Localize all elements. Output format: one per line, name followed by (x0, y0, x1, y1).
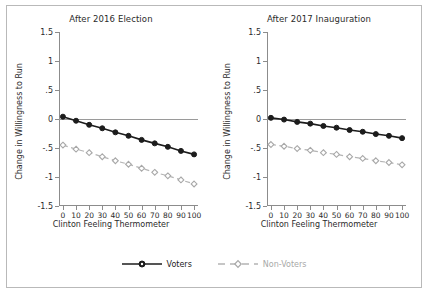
y-axis-tick-label: -.5 (42, 144, 53, 153)
x-axis-tick (168, 206, 169, 210)
x-axis-tick-label: 30 (305, 211, 315, 220)
x-axis-tick-label: 60 (137, 211, 147, 220)
data-point-marker (347, 154, 353, 160)
y-axis-tick-label: -.5 (250, 144, 261, 153)
data-point-marker (60, 114, 65, 119)
x-axis-tick-label: 0 (61, 211, 66, 220)
data-point-marker (400, 136, 405, 141)
data-point-marker (60, 142, 66, 148)
y-axis-tick-label: 0 (48, 115, 53, 124)
x-axis-tick (389, 206, 390, 210)
y-axis-tick-label: -1.5 (245, 202, 261, 211)
x-axis-tick-label: 30 (97, 211, 107, 220)
y-axis-tick-label: 1.5 (40, 28, 53, 37)
panel-after-2017-inauguration: After 2017 Inauguration Change in Willin… (215, 6, 423, 256)
x-axis-tick (310, 206, 311, 210)
data-point-marker (334, 125, 339, 130)
x-axis-tick (155, 206, 156, 210)
data-point-marker (139, 137, 144, 142)
x-axis-tick (181, 206, 182, 210)
panel-after-2016-election: After 2016 Election Change in Willingnes… (7, 6, 215, 256)
y-axis-title-text: Change in Willingness to Run (15, 63, 24, 180)
data-point-marker (386, 133, 391, 138)
data-point-marker (152, 141, 157, 146)
data-point-marker (281, 143, 287, 149)
x-axis-tick-label: 80 (371, 211, 381, 220)
data-point-marker (282, 117, 287, 122)
data-point-marker (360, 156, 366, 162)
data-point-marker (386, 160, 392, 166)
data-point-marker (347, 128, 352, 133)
data-point-marker (373, 158, 379, 164)
plot-area: 1.51.50-.5-1-1.50102030405060708090100 (267, 32, 406, 206)
x-axis-tick-label: 50 (332, 211, 342, 220)
x-axis-tick-label: 60 (345, 211, 355, 220)
x-axis-tick-label: 10 (279, 211, 289, 220)
data-point-marker (320, 150, 326, 156)
y-axis-title: Change in Willingness to Run (221, 36, 233, 206)
x-axis-tick (284, 206, 285, 210)
y-axis-tick-label: 1 (48, 57, 53, 66)
legend-label-voters: Voters (167, 260, 192, 269)
data-point-marker (73, 146, 79, 152)
x-axis-tick (297, 206, 298, 210)
x-axis-tick (350, 206, 351, 210)
data-point-marker (321, 123, 326, 128)
y-axis-title: Change in Willingness to Run (13, 36, 25, 206)
legend-label-non-voters: Non-Voters (263, 260, 307, 269)
data-point-marker (307, 147, 313, 153)
x-axis-tick (402, 206, 403, 210)
x-axis-tick (89, 206, 90, 210)
x-axis-tick-label: 40 (111, 211, 121, 220)
data-point-marker (165, 144, 170, 149)
data-point-marker (360, 129, 365, 134)
x-axis-tick-label: 70 (150, 211, 160, 220)
data-point-marker (268, 142, 274, 148)
y-axis-tick-label: 1.5 (248, 28, 261, 37)
x-axis-title: Clinton Feeling Thermometer (215, 220, 423, 229)
x-axis-tick (63, 206, 64, 210)
x-axis-tick-label: 100 (187, 211, 201, 220)
x-axis-tick (142, 206, 143, 210)
data-point-marker (192, 152, 197, 157)
legend-item-non-voters[interactable]: Non-Voters (218, 259, 307, 269)
x-axis-tick (102, 206, 103, 210)
y-axis-tick-label: -1.5 (37, 202, 53, 211)
x-axis-tick (323, 206, 324, 210)
legend-item-voters[interactable]: Voters (122, 259, 192, 269)
x-axis-tick (115, 206, 116, 210)
data-point-marker (99, 154, 105, 160)
y-axis-tick-label: .5 (45, 86, 53, 95)
x-axis-tick-label: 70 (358, 211, 368, 220)
x-axis-tick-label: 0 (269, 211, 274, 220)
x-axis-tick-label: 40 (319, 211, 329, 220)
y-axis-tick (263, 206, 267, 207)
x-axis-tick (271, 206, 272, 210)
data-point-marker (113, 130, 118, 135)
x-axis-tick-label: 10 (71, 211, 81, 220)
data-point-marker (334, 151, 340, 157)
data-point-marker (399, 162, 405, 168)
data-point-marker (294, 146, 300, 152)
data-point-marker (308, 121, 313, 126)
x-axis-title: Clinton Feeling Thermometer (7, 220, 215, 229)
data-point-marker (139, 165, 145, 171)
x-axis-tick (194, 206, 195, 210)
legend: Voters Non-Voters (7, 259, 421, 269)
data-point-marker (126, 133, 131, 138)
y-axis-tick (55, 206, 59, 207)
x-axis-tick (76, 206, 77, 210)
data-point-marker (112, 158, 118, 164)
data-point-marker (373, 132, 378, 137)
series-layer (59, 32, 198, 206)
x-axis-tick (129, 206, 130, 210)
legend-key-non-voters-icon (218, 259, 258, 269)
y-axis-tick-label: 1 (256, 57, 261, 66)
data-point-marker (165, 173, 171, 179)
y-axis-tick-label: -1 (253, 173, 261, 182)
data-point-marker (86, 150, 92, 156)
x-axis-tick (363, 206, 364, 210)
x-axis-tick-label: 80 (163, 211, 173, 220)
y-axis-tick-label: .5 (253, 86, 261, 95)
y-axis-tick-label: -1 (45, 173, 53, 182)
